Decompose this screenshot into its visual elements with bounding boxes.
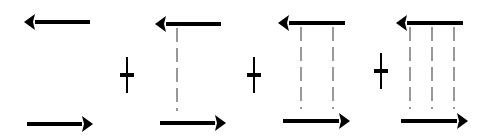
diagram-canvas [0,0,489,140]
arrow-head [155,16,166,32]
panel-3 [278,15,350,129]
panel-4 [396,15,468,129]
panel-2 [155,16,226,131]
plus-sign [374,53,388,89]
right-arrow [160,115,226,131]
left-arrow [24,14,90,30]
arrow-head [396,15,407,31]
arrow-head [215,115,226,131]
left-arrow [396,15,463,31]
arrow-head [278,15,289,31]
plus-sign [120,57,134,93]
right-arrow [401,113,468,129]
arrow-head [24,14,35,30]
right-arrow [27,116,93,132]
arrow-head [457,113,468,129]
arrow-head [339,113,350,129]
arrow-head [82,116,93,132]
left-arrow [155,16,221,32]
right-arrow [283,113,350,129]
plus-sign [247,57,261,93]
panel-1 [24,14,93,132]
left-arrow [278,15,345,31]
